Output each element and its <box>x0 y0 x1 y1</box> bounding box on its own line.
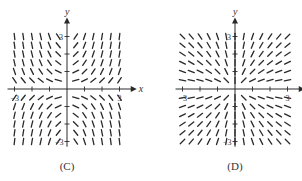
slope-segment <box>242 69 245 75</box>
slope-segment <box>285 122 290 126</box>
slope-segment <box>74 34 78 39</box>
slope-segment <box>82 96 88 99</box>
slope-segment <box>73 79 79 81</box>
slope-segment <box>242 104 245 110</box>
slope-segment <box>198 52 203 57</box>
slope-segment <box>285 61 291 64</box>
slope-segment <box>225 104 228 110</box>
slope-segment <box>206 113 211 118</box>
y-axis-arrow-icon <box>64 18 70 24</box>
slope-segment <box>82 69 87 74</box>
slope-segment <box>83 33 85 39</box>
slope-segment <box>224 78 229 83</box>
slope-segment <box>198 122 203 127</box>
slope-segment <box>180 131 185 135</box>
slope-segment <box>268 43 272 48</box>
slope-segment <box>83 60 87 65</box>
slope-segment <box>207 139 210 145</box>
slope-segment <box>216 51 219 57</box>
slope-segment <box>188 70 194 72</box>
slope-field-d: xy−333−3 <box>151 0 302 181</box>
slope-segment <box>40 130 42 136</box>
slope-segment <box>276 114 281 117</box>
slope-segment <box>14 60 15 66</box>
slope-segment <box>258 97 264 99</box>
slope-segment <box>198 43 202 48</box>
slope-segment <box>31 60 33 66</box>
x-axis-arrow-icon <box>299 86 302 92</box>
slope-segment <box>207 51 211 56</box>
slope-segment <box>82 79 88 82</box>
slope-segment <box>284 70 290 72</box>
y-axis-label: y <box>64 6 70 17</box>
slope-segment <box>216 42 218 48</box>
slope-segment <box>276 43 281 48</box>
slope-segment <box>38 78 43 82</box>
slope-segment <box>73 52 78 57</box>
slope-segment <box>14 42 15 48</box>
slope-segment <box>206 60 211 65</box>
slope-segment <box>47 96 53 99</box>
slope-segment <box>31 33 32 39</box>
slope-segment <box>56 130 60 135</box>
slope-segment <box>74 130 78 135</box>
slope-segment <box>267 79 273 81</box>
slope-segment <box>276 122 281 126</box>
slope-segment <box>110 42 111 48</box>
slope-segment <box>259 70 264 74</box>
slope-segment <box>259 51 263 56</box>
slope-segment <box>119 130 120 136</box>
slope-segment <box>260 139 263 145</box>
slope-segment <box>48 51 51 57</box>
slope-segment <box>179 80 185 81</box>
slope-segment <box>39 69 43 74</box>
slope-segment <box>91 78 96 82</box>
slope-segment <box>243 130 244 136</box>
slope-segment <box>189 114 194 117</box>
slope-segment <box>40 33 41 39</box>
slope-segment <box>189 130 194 135</box>
slope-segment <box>179 105 185 107</box>
slope-segment <box>119 138 120 144</box>
slope-segment <box>119 112 120 118</box>
slope-segment <box>47 69 52 74</box>
slope-field-panel-d: xy−333−3 (D) <box>151 0 302 181</box>
slope-segment <box>38 96 43 100</box>
slope-segment <box>180 114 186 117</box>
slope-segment <box>73 122 78 127</box>
slope-segment <box>206 105 211 109</box>
slope-segment <box>56 122 61 127</box>
slope-segment <box>197 79 203 81</box>
slope-segment <box>197 97 203 99</box>
slope-segment <box>83 130 85 136</box>
slope-segment <box>83 42 85 48</box>
slope-segment <box>189 52 194 56</box>
slope-segment <box>189 139 193 144</box>
slope-segment <box>259 121 263 126</box>
slope-segment <box>101 51 103 57</box>
slope-segment <box>188 97 194 98</box>
slope-segment <box>118 78 122 83</box>
slope-segment <box>216 121 219 127</box>
slope-segment <box>55 70 61 73</box>
slope-segment <box>207 34 210 40</box>
slope-segment <box>243 42 244 48</box>
slope-segment <box>91 104 95 109</box>
slope-segment <box>268 130 272 135</box>
slope-segment <box>180 122 185 126</box>
slope-segment <box>260 130 263 135</box>
slope-segment <box>92 60 95 66</box>
slope-segment <box>91 69 95 74</box>
slope-segment <box>198 139 202 144</box>
slope-segment <box>73 70 79 73</box>
y-axis-arrow-icon <box>232 18 238 24</box>
slope-segment <box>31 138 32 144</box>
slope-segment <box>180 139 185 144</box>
slope-segment <box>22 60 24 66</box>
slope-segment <box>206 79 212 81</box>
slope-segment <box>101 60 103 66</box>
slope-segment <box>92 112 95 118</box>
slope-segment <box>55 79 61 81</box>
slope-segment <box>276 80 282 81</box>
slope-segment <box>206 70 211 74</box>
